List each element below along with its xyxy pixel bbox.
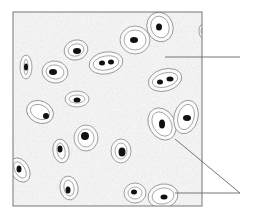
- nucleus: [99, 61, 105, 66]
- nucleus: [74, 98, 81, 103]
- nucleus: [156, 24, 162, 31]
- tissue-illustration: [0, 0, 254, 224]
- nucleus: [108, 60, 114, 65]
- nucleus: [161, 195, 168, 200]
- nucleus: [24, 64, 28, 71]
- nucleus: [130, 37, 138, 43]
- nucleus: [49, 69, 57, 75]
- lacuna-capsule: [199, 24, 207, 38]
- nucleus: [157, 80, 163, 85]
- nucleus: [183, 115, 191, 121]
- nucleus: [66, 187, 71, 194]
- nucleus: [58, 146, 63, 153]
- nucleus: [17, 166, 22, 173]
- nucleus: [119, 148, 126, 157]
- nucleus: [81, 132, 89, 140]
- nucleus: [167, 77, 174, 82]
- nucleus: [73, 48, 81, 54]
- tissue-diagram: [0, 0, 254, 224]
- nucleus: [159, 120, 165, 129]
- nucleus: [131, 190, 137, 195]
- cell-g: [199, 24, 207, 38]
- nucleus: [43, 113, 49, 119]
